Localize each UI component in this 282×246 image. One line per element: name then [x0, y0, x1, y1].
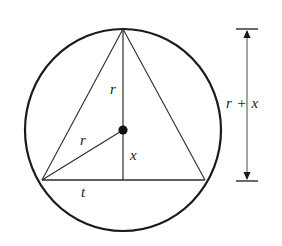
label-height-segment-x: x [130, 148, 137, 163]
triangle-left-side [42, 29, 123, 180]
dimension-arrow-down-icon [243, 172, 250, 180]
label-radius-diagonal: r [80, 133, 86, 148]
circle-center-dot [118, 125, 127, 134]
label-chord-half-t: t [81, 185, 85, 200]
label-dimension-r-plus-x: r + x [226, 96, 259, 111]
geometry-figure: r r x t r + x [0, 0, 282, 246]
dimension-arrow-up-icon [243, 30, 250, 38]
label-radius-vertical: r [110, 82, 116, 97]
geometry-canvas [0, 0, 282, 246]
